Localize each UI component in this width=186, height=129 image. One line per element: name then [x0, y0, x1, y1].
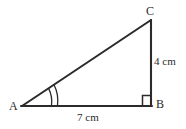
geometry-diagram: C B A 4 cm 7 cm [0, 0, 186, 129]
angle-arc-outer-icon [54, 85, 58, 106]
angle-arc-inner-icon [49, 88, 52, 105]
vertex-label-c: C [146, 5, 154, 17]
triangle-side-ca [22, 20, 151, 106]
right-angle-square-icon [143, 96, 152, 106]
side-length-label-ab: 7 cm [77, 111, 99, 123]
vertex-label-b: B [156, 98, 164, 110]
vertex-label-a: A [9, 100, 18, 112]
side-length-label-bc: 4 cm [154, 55, 176, 67]
